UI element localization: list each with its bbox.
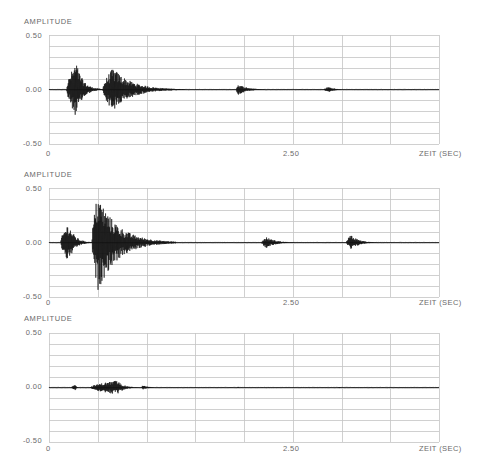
waveform-panel-3: AMPLITUDE 0.50 0.00 -0.50 0 2.50 ZEIT (S…: [0, 298, 481, 448]
waveform-plot: [0, 298, 481, 448]
waveform-panel-1: AMPLITUDE 0.50 0.00 -0.50 0 2.50 ZEIT (S…: [0, 0, 481, 150]
waveform-trace: [49, 204, 439, 290]
waveform-plot: [0, 0, 481, 150]
waveform-plot: [0, 153, 481, 303]
waveform-panel-2: AMPLITUDE 0.50 0.00 -0.50 0 2.50 ZEIT (S…: [0, 153, 481, 303]
